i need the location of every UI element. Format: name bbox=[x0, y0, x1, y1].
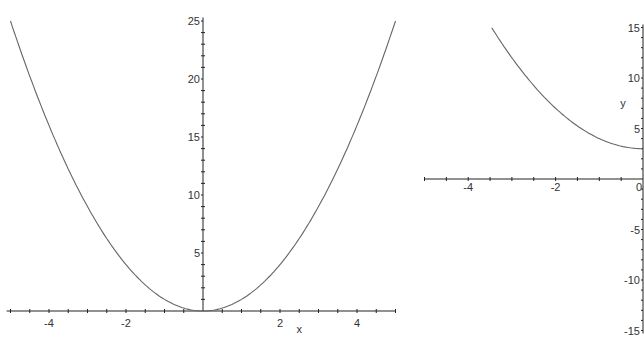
x-tick-label: 4 bbox=[354, 317, 360, 329]
x-tick-label: -2 bbox=[121, 317, 131, 329]
y-tick-label: 10 bbox=[628, 72, 640, 84]
x-tick-label: 2 bbox=[277, 317, 283, 329]
y-tick-label: 15 bbox=[628, 22, 640, 34]
y-tick-label: -5 bbox=[630, 224, 640, 236]
plot-left: -4-224510152025x bbox=[7, 15, 396, 335]
x-axis-label: x bbox=[297, 323, 303, 335]
y-tick-label: 15 bbox=[188, 131, 200, 143]
y-tick-label: 5 bbox=[194, 247, 200, 259]
y-tick-label: 25 bbox=[188, 15, 200, 27]
y-tick-label: -15 bbox=[624, 325, 640, 337]
x-tick-label: -2 bbox=[551, 181, 561, 193]
chart-canvas: -4-224510152025x -4-2015105-5-10-15y bbox=[0, 0, 644, 345]
x-tick-label: -4 bbox=[44, 317, 54, 329]
y-axis-label: y bbox=[620, 97, 626, 109]
plot-right: -4-2015105-5-10-15y bbox=[425, 22, 644, 337]
y-tick-label: 10 bbox=[188, 189, 200, 201]
curve-x-squared-plus-3 bbox=[492, 28, 642, 149]
y-tick-label: 5 bbox=[634, 123, 640, 135]
y-tick-label: -10 bbox=[624, 274, 640, 286]
y-tick-label: 20 bbox=[188, 73, 200, 85]
x-tick-label: -4 bbox=[463, 181, 473, 193]
x-tick-label: 0 bbox=[636, 181, 642, 193]
